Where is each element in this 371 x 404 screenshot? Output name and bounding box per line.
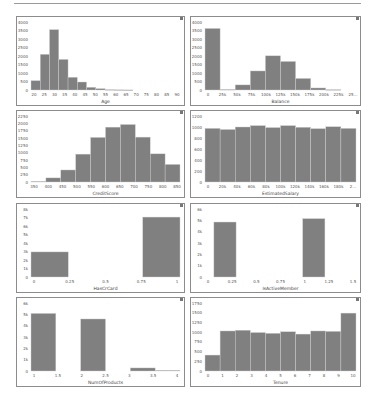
y-tick-label: 2000 [18,121,29,126]
histogram-plot: 0500100015002000250030003500400020253035… [17,17,184,105]
x-tick-label: 0.5 [102,279,109,284]
y-tick-label: 4000 [18,20,29,25]
y-tick-label: 800 [194,136,202,141]
y-tick-label: 5k [197,218,203,223]
histogram-bar [296,334,311,371]
x-tick-label: 3 [250,373,253,378]
y-tick-label: 750 [194,339,202,344]
y-tick-label: 3k [197,241,203,246]
x-tick-label: 140k [305,184,316,189]
panel-menu-icon[interactable] [180,111,183,114]
y-tick-label: 500 [194,79,202,84]
histogram-bar [250,333,265,371]
histogram-bar [96,89,105,90]
panel-menu-icon[interactable] [180,17,183,20]
histogram-panel-numofproducts: 01k2k3k4k5k6k11.522.533.54NumOfProducts [16,297,185,387]
histogram-bar [59,59,68,90]
x-tick-label: 50k [233,92,241,97]
histogram-bar [265,56,280,90]
x-tick-label: 0 [207,184,210,189]
y-tick-label: 6k [23,224,29,229]
x-tick-label: 400 [44,184,52,189]
y-tick-label: 1000 [192,330,203,335]
x-tick-label: 20k [219,184,227,189]
x-tick-label: 350 [30,184,38,189]
x-axis-label: CreditScore [92,191,118,196]
y-tick-label: 3500 [192,28,203,33]
x-tick-label: 700 [130,184,138,189]
y-tick-label: 4k [197,229,203,234]
histogram-panel-estimatedsalary: 020040060080010001200020k40k60k80k100k12… [190,110,361,198]
x-tick-label: 225k [334,92,345,97]
x-axis-label: IsActiveMember [262,286,298,291]
y-tick-label: 2k [23,258,29,263]
x-tick-label: 500 [73,184,81,189]
y-tick-label: 4k [23,241,29,246]
histogram-bar [303,219,325,277]
x-tick-label: 2 [236,373,239,378]
x-tick-label: 0.5 [253,279,260,284]
x-tick-label: 3.5 [150,373,157,378]
panel-menu-icon[interactable] [356,111,359,114]
y-tick-label: 1000 [18,150,29,155]
histogram-bar [68,77,77,90]
y-tick-label: 5k [23,312,29,317]
x-tick-label: 120k [290,184,301,189]
histogram-bar [265,128,280,182]
histogram-bar [326,90,341,91]
panel-menu-icon[interactable] [356,17,359,20]
panel-menu-icon[interactable] [180,298,183,301]
x-tick-label: 0 [207,373,210,378]
y-tick-label: 1k [23,357,29,362]
histogram-bar [91,137,106,182]
histogram-bar [87,87,96,90]
x-tick-label: 550 [87,184,95,189]
x-tick-label: 10 [350,373,356,378]
x-tick-label: 2.5 [102,373,109,378]
histogram-plot: 05001000150020002500300035004000025k50k7… [191,17,360,105]
y-tick-label: 1000 [18,71,29,76]
y-tick-label: 6k [23,301,29,306]
panel-menu-icon[interactable] [180,204,183,207]
x-tick-label: 0.75 [276,279,285,284]
x-tick-label: 50 [93,92,99,97]
x-tick-label: 25... [349,92,358,97]
histogram-bar [120,125,135,182]
y-tick-label: 1000 [192,71,203,76]
histogram-bar [40,54,49,90]
histogram-bar [265,333,280,371]
histogram-bar [235,127,250,182]
y-tick-label: 0 [25,275,28,280]
x-tick-label: 80 [154,92,160,97]
y-tick-label: 250 [20,172,28,177]
y-tick-label: 4k [23,323,29,328]
x-tick-label: 4 [265,373,268,378]
y-tick-label: 500 [20,165,28,170]
x-tick-label: 40 [72,92,78,97]
histogram-panel-age: 0500100015002000250030003500400020253035… [16,16,185,106]
x-tick-label: 75 [144,92,150,97]
y-tick-label: 500 [20,79,28,84]
y-tick-label: 2000 [18,54,29,59]
histogram-bar [76,154,91,182]
histogram-bar [326,127,341,182]
y-tick-label: 1500 [18,62,29,67]
histogram-bar [214,222,236,277]
panel-menu-icon[interactable] [356,204,359,207]
y-tick-label: 3k [23,249,29,254]
x-tick-label: 125k [276,92,287,97]
histogram-bar [31,181,46,182]
x-axis-label: NumOfProducts [88,380,124,385]
x-tick-label: 200k [319,92,330,97]
y-tick-label: 500 [194,349,202,354]
x-tick-label: 2... [350,184,356,189]
histogram-bar [31,252,68,277]
y-tick-label: 2500 [192,45,203,50]
histogram-bar [50,30,59,90]
histogram-panel-balance: 05001000150020002500300035004000025k50k7… [190,16,361,106]
x-axis-label: Age [101,99,110,104]
histogram-bar [135,137,150,182]
y-tick-label: 2000 [192,54,203,59]
histogram-plot: 0250500750100012501500175020002250350400… [17,111,184,197]
panel-menu-icon[interactable] [356,298,359,301]
